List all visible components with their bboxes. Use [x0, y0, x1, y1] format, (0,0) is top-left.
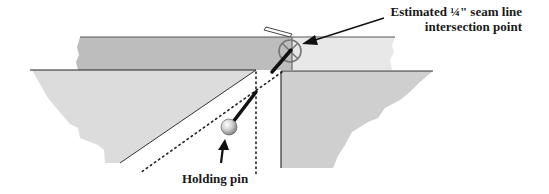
pin-shaft-lower	[233, 92, 256, 122]
right-fabric-piece	[281, 71, 433, 168]
seam-point-label: Estimated ¼" seam line intersection poin…	[387, 4, 522, 34]
seam-tab-marker	[264, 27, 292, 37]
diagram-canvas: Estimated ¼" seam line intersection poin…	[0, 0, 549, 194]
holding-pin-head-icon	[221, 119, 237, 135]
seam-point-label-line1: Estimated ¼" seam line	[387, 4, 522, 19]
top-strip-dark	[76, 37, 292, 70]
arrow-to-pin-icon	[218, 139, 229, 163]
seam-point-label-line2: intersection point	[387, 19, 522, 34]
holding-pin-label: Holding pin	[182, 171, 248, 186]
